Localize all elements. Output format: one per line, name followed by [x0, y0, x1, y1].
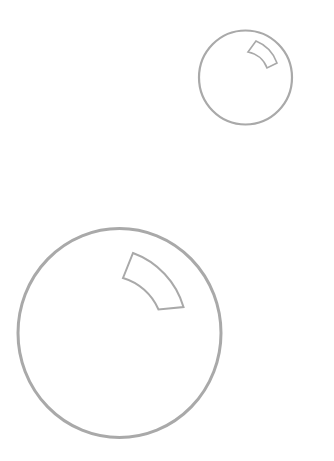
bubbles-illustration — [0, 0, 334, 461]
small-bubble — [199, 31, 292, 125]
large-bubble — [18, 229, 221, 438]
small-bubble-outline — [199, 31, 292, 125]
large-bubble-outline — [18, 229, 221, 438]
